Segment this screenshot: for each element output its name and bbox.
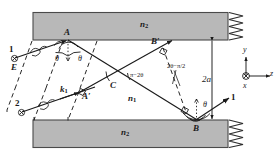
point-label-A-prime: A′	[82, 92, 91, 101]
bottom-cladding-break-zigzag	[229, 120, 243, 148]
angle-label-pi-minus-2theta: π−2θ	[130, 72, 143, 79]
surface-normal-at-B	[195, 99, 199, 120]
ray-2-polarization-circle-x	[18, 109, 24, 115]
wavefront-dashed-lines	[7, 41, 97, 121]
wavevector-label-k1: k1	[60, 85, 68, 95]
ray-label-1-incident: 1	[9, 45, 14, 54]
angle-label-2theta-minus-half-pi: 2θ−π/2	[167, 63, 185, 70]
right-angle-marker-Bprime	[160, 48, 168, 55]
wavefront-dashed-lines-right	[163, 48, 186, 112]
dimension-label-2a: 2a	[202, 75, 211, 84]
point-label-B: B	[193, 124, 199, 133]
bottom-cladding-index-label: n2	[121, 128, 129, 138]
top-cladding-index-label: n2	[140, 20, 148, 30]
ray-label-1-outgoing: 1	[231, 93, 236, 102]
ray-label-2-incident: 2	[15, 99, 20, 108]
point-label-E: E	[11, 63, 17, 72]
ray-1-polarization-circle-x	[11, 55, 17, 61]
ray-segment-Aprime-to-Bprime	[79, 41, 172, 93]
angle-label-theta-B: θ	[203, 101, 207, 109]
axis-label-x: x	[243, 82, 247, 90]
top-cladding-break-zigzag	[229, 13, 243, 41]
angle-label-theta-A-right: θ	[78, 55, 82, 63]
waveguide-ray-diagram-figure: n2 n2 n1 A A′ C B′ B E 1 2 1 k1 θ θ θ π−…	[0, 0, 279, 157]
point-label-C: C	[110, 81, 116, 90]
core-index-label: n1	[128, 94, 136, 104]
point-label-A: A	[64, 28, 70, 37]
top-cladding-slab	[33, 13, 228, 41]
coordinate-axes	[243, 57, 270, 79]
surface-normal-at-A	[66, 41, 70, 62]
axis-label-y: y	[243, 46, 247, 54]
angle-label-theta-A-left: θ	[55, 55, 59, 63]
angle-label-leader-line	[173, 70, 181, 86]
ray-outgoing-from-B	[197, 98, 230, 120]
point-label-B-prime: B′	[151, 37, 160, 46]
axis-label-z: z	[270, 70, 273, 78]
